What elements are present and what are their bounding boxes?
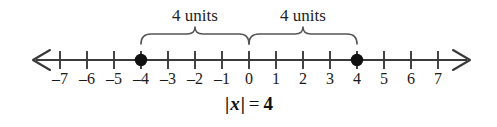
tick-label-1: 1 (272, 70, 280, 88)
brace-left (141, 27, 249, 44)
tick-label-minus-4: –4 (133, 70, 149, 88)
tick-label-minus-1: –1 (214, 70, 230, 88)
brace-label-right: 4 units (280, 6, 326, 26)
tick-label-5: 5 (380, 70, 388, 88)
equation-variable: x (229, 93, 241, 114)
tick-label-minus-2: –2 (187, 70, 203, 88)
tick-label-4: 4 (353, 70, 361, 88)
tick-label-3: 3 (326, 70, 334, 88)
equals-sign: = (245, 93, 264, 114)
tick-label-minus-6: –6 (79, 70, 95, 88)
tick-label-zero: 0 (245, 70, 253, 88)
equation-value: 4 (264, 93, 274, 114)
tick-label-7: 7 (434, 70, 442, 88)
tick-label-2: 2 (299, 70, 307, 88)
tick-label-6: 6 (407, 70, 415, 88)
brace-right (249, 27, 357, 44)
solution-point-4 (351, 54, 363, 66)
number-line-figure: 4 units 4 units –7 –6 –5 –4 –3 –2 –1 0 1… (0, 0, 497, 127)
tick-label-minus-5: –5 (106, 70, 122, 88)
tick-label-minus-7: –7 (52, 70, 68, 88)
brace-label-left: 4 units (172, 6, 218, 26)
solution-point-minus-4 (135, 54, 147, 66)
equation-caption: |x|=4 (225, 93, 273, 115)
tick-label-minus-3: –3 (160, 70, 176, 88)
